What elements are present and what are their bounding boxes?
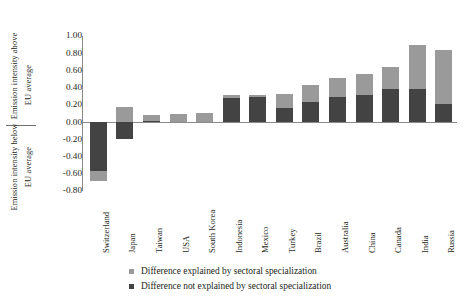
y-tick-label: -0.60	[42, 169, 82, 178]
y-tick-label: 0.00	[42, 118, 82, 127]
x-category-label: USA	[182, 236, 191, 253]
x-category-label: China	[368, 232, 377, 253]
x-category-label: India	[421, 235, 430, 253]
chart-figure: Emission intensity above EU average Emis…	[0, 0, 467, 303]
y-tick-label: 0.40	[42, 83, 82, 92]
y-tick-label: 0.60	[42, 66, 82, 75]
y-axis-title-below-secondary: EU average	[22, 128, 36, 206]
y-axis-title-below-text: Emission intensity below	[11, 123, 19, 210]
y-tick-label: 0.20	[42, 100, 82, 109]
y-tick-label: 1.00	[42, 31, 82, 40]
x-category-label: Turkey	[288, 228, 297, 253]
y-axis-title-above-secondary: EU average	[22, 44, 36, 126]
legend-item[interactable]: Difference explained by sectoral special…	[129, 264, 429, 279]
y-axis-tick-labels: 1.000.800.600.400.200.00-0.20-0.40-0.60-…	[38, 0, 82, 303]
x-category-label: Mexico	[261, 227, 270, 253]
y-tick-label: -0.40	[42, 152, 82, 161]
y-axis-title-above-text-2: EU average	[25, 65, 33, 105]
y-axis-title-above-text: Emission intensity above	[11, 33, 19, 120]
x-category-label: Canada	[394, 227, 403, 253]
chart-legend: Difference explained by sectoral special…	[129, 264, 429, 294]
x-category-label: Brazil	[314, 232, 323, 253]
x-category-label: South Korea	[208, 210, 217, 253]
x-category-label: Switzerland	[102, 212, 111, 253]
x-category-label: Japan	[128, 233, 137, 253]
y-axis-line	[82, 36, 83, 191]
x-category-label: Australia	[341, 221, 350, 253]
legend-swatch-icon	[129, 269, 134, 274]
y-tick-label: -0.80	[42, 186, 82, 195]
y-tick-label: -0.20	[42, 135, 82, 144]
x-category-label: Russia	[447, 230, 456, 253]
y-axis-title-below-primary: Emission intensity below	[8, 128, 22, 206]
y-axis-title-below-text-2: EU average	[25, 147, 33, 187]
x-axis-category-labels: SwitzerlandJapanTaiwanUSASouth KoreaIndo…	[85, 0, 457, 303]
legend-label: Difference explained by sectoral special…	[141, 267, 317, 276]
x-category-label: Indonesia	[235, 220, 244, 253]
y-tick-label: 0.80	[42, 49, 82, 58]
legend-item[interactable]: Difference not explained by sectoral spe…	[129, 279, 429, 294]
x-category-label: Taiwan	[155, 228, 164, 253]
legend-swatch-icon	[129, 284, 134, 289]
y-axis-title-above-primary: Emission intensity above	[8, 26, 22, 126]
legend-label: Difference not explained by sectoral spe…	[141, 282, 331, 291]
